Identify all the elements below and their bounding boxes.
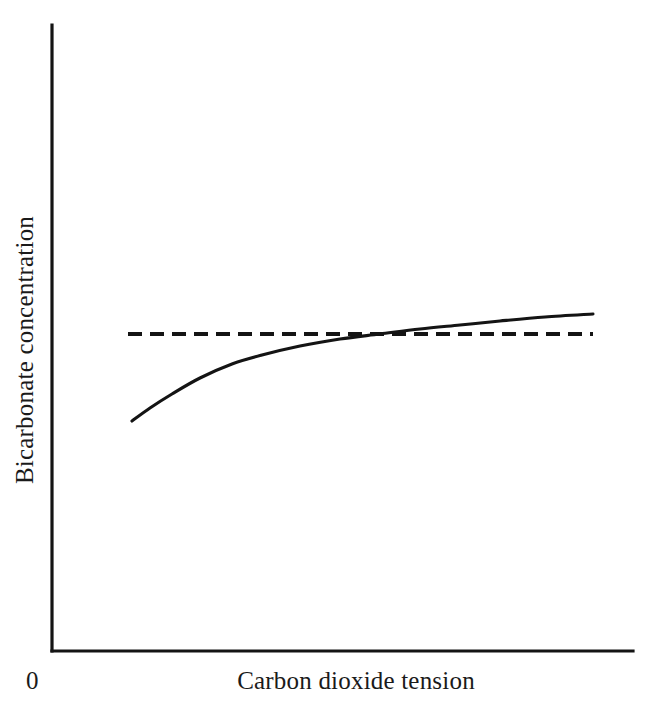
chart-figure: Bicarbonate concentration Carbon dioxide… [0,0,657,713]
chart-background [0,0,657,713]
x-axis-title: Carbon dioxide tension [237,667,475,694]
origin-label: 0 [26,667,39,694]
y-axis-title: Bicarbonate concentration [11,216,38,484]
